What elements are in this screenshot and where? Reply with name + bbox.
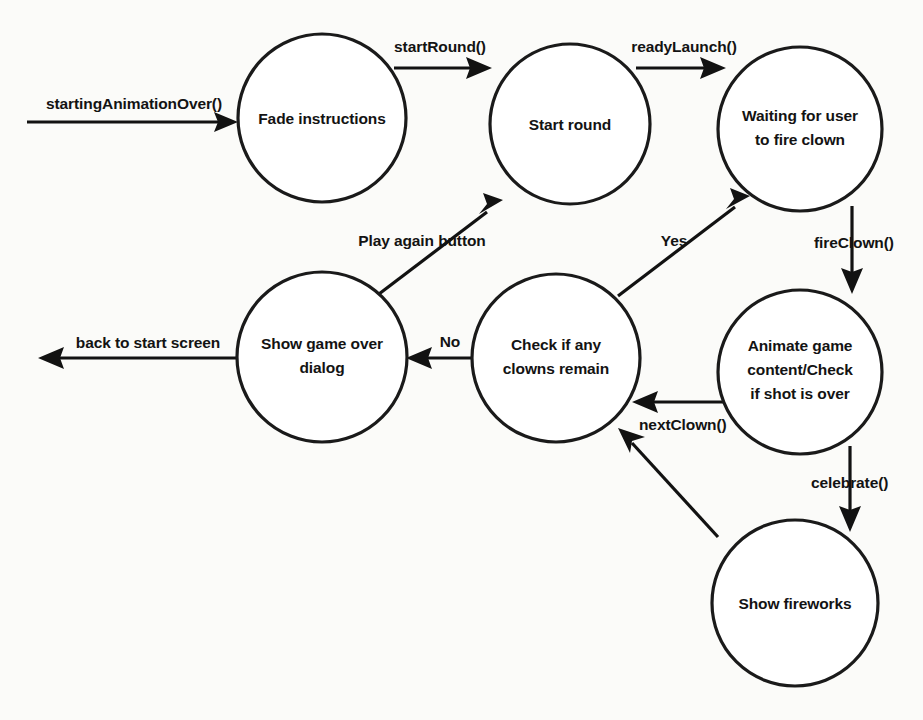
state-label-line-2: content/Check <box>747 361 853 378</box>
edge-label-readyLaunch: readyLaunch() <box>631 38 737 55</box>
state-label-line-1: Waiting for user <box>742 107 858 124</box>
edge-start-round-to-waiting: readyLaunch() <box>631 38 737 79</box>
state-label-line-3: if shot is over <box>750 385 849 402</box>
edge-label-no: No <box>440 333 460 350</box>
state-node-animate-game-content[interactable]: Animate game content/Check if shot is ov… <box>718 290 882 454</box>
state-circle[interactable] <box>472 274 640 442</box>
edge-line <box>632 443 718 537</box>
state-node-check-if-any-clowns-remain[interactable]: Check if any clowns remain <box>472 274 640 442</box>
state-machine-diagram: startingAnimationOver() startRound() rea… <box>0 0 923 720</box>
state-node-show-game-over-dialog[interactable]: Show game over dialog <box>237 272 407 442</box>
edge-check-to-waiting-yes: Yes <box>618 188 750 296</box>
state-label-line-1: Start round <box>529 116 611 133</box>
state-node-fade-instructions[interactable]: Fade instructions <box>238 34 406 202</box>
edge-game-over-to-start-screen: back to start screen <box>38 334 238 369</box>
state-label-line-2: to fire clown <box>755 131 845 148</box>
edge-label-startingAnimationOver: startingAnimationOver() <box>46 95 222 112</box>
state-circle[interactable] <box>237 272 407 442</box>
arrowhead-icon <box>479 193 503 214</box>
state-label-line-2: clowns remain <box>503 360 609 377</box>
edge-label-nextClown: nextClown() <box>639 416 727 433</box>
edge-label-celebrate: celebrate() <box>811 474 888 491</box>
edge-check-to-game-over-no: No <box>406 333 474 369</box>
edge-label-startRound: startRound() <box>394 38 486 55</box>
state-node-show-fireworks[interactable]: Show fireworks <box>712 520 878 686</box>
edge-show-fireworks-to-check <box>618 428 718 537</box>
state-circle[interactable] <box>718 47 882 211</box>
state-label-line-1: Show game over <box>261 335 383 352</box>
edge-label-back-to-start-screen: back to start screen <box>76 334 220 351</box>
state-label-line-1: Fade instructions <box>258 110 386 127</box>
state-node-waiting-for-user-to-fire-clown[interactable]: Waiting for user to fire clown <box>718 47 882 211</box>
state-label-line-2: dialog <box>299 359 344 376</box>
edge-label-yes: Yes <box>661 232 687 249</box>
edge-fade-instructions-to-start-round: startRound() <box>394 38 492 79</box>
edge-label-fireClown: fireClown() <box>814 234 894 251</box>
edge-animate-to-show-fireworks: celebrate() <box>811 446 888 532</box>
edge-entry-to-fade-instructions: startingAnimationOver() <box>27 95 238 132</box>
edge-line <box>375 212 487 297</box>
edge-waiting-to-animate: fireClown() <box>814 206 894 294</box>
state-node-start-round[interactable]: Start round <box>490 44 650 204</box>
edge-game-over-to-start-round: Play again button <box>358 193 503 297</box>
edge-label-play-again-button: Play again button <box>358 232 485 249</box>
edge-animate-to-check: nextClown() <box>632 391 728 433</box>
state-label-line-1: Check if any <box>511 336 602 353</box>
state-label-line-1: Show fireworks <box>738 595 851 612</box>
state-diagram-canvas: startingAnimationOver() startRound() rea… <box>0 0 923 720</box>
edge-line <box>618 207 735 296</box>
state-label-line-1: Animate game <box>748 337 853 354</box>
